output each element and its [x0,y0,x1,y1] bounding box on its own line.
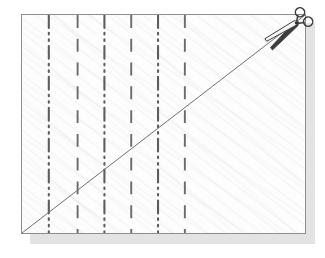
figure-canvas [0,0,325,258]
diagonal-cut-line [22,15,305,233]
sheet-line-art [22,15,305,233]
paper-sheet [21,14,306,234]
